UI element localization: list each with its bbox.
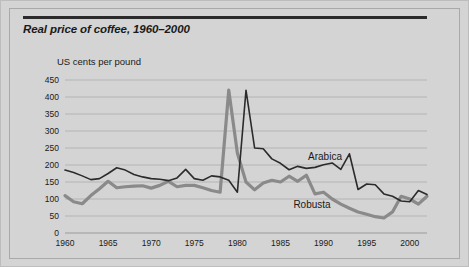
plot-area: 0501001502002503003504004501960196519701… [1, 1, 469, 267]
y-axis-tick-label: 350 [29, 109, 59, 119]
x-axis-tick-label: 1970 [142, 238, 161, 248]
x-axis-tick-label: 1975 [185, 238, 204, 248]
y-axis-tick-label: 100 [29, 194, 59, 204]
x-axis-tick-label: 1985 [271, 238, 290, 248]
series-line-arabica [65, 90, 427, 202]
y-axis-tick-label: 0 [29, 228, 59, 238]
series-label-arabica: Arabica [308, 151, 342, 162]
y-axis-tick-label: 300 [29, 126, 59, 136]
y-axis-tick-label: 200 [29, 160, 59, 170]
chart-figure: Real price of coffee, 1960–2000 US cents… [0, 0, 469, 267]
chart-canvas [1, 1, 469, 267]
y-axis-tick-label: 400 [29, 92, 59, 102]
x-axis-tick-label: 1965 [99, 238, 118, 248]
x-axis-tick-label: 1995 [357, 238, 376, 248]
y-axis-tick-label: 50 [29, 211, 59, 221]
series-label-robusta: Robusta [293, 199, 330, 210]
y-axis-tick-label: 250 [29, 143, 59, 153]
x-axis-tick-label: 1980 [228, 238, 247, 248]
y-axis-tick-label: 450 [29, 75, 59, 85]
x-axis-tick-label: 1990 [314, 238, 333, 248]
y-axis-tick-label: 150 [29, 177, 59, 187]
x-axis-tick-label: 1960 [56, 238, 75, 248]
x-axis-tick-label: 2000 [400, 238, 419, 248]
